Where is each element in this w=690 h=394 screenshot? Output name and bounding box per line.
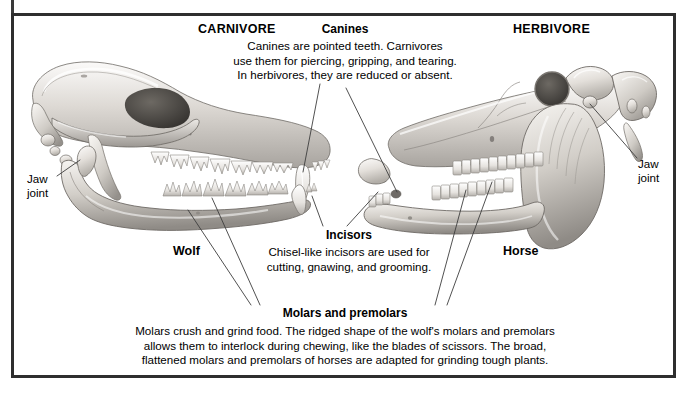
callout-canines-body: Canines are pointed teeth. Carnivores us… (233, 39, 457, 83)
label-specimen-wolf: Wolf (173, 245, 200, 259)
callout-molars-body: Molars crush and grind food. The ridged … (135, 324, 555, 368)
callout-incisors-body: Chisel-like incisors are used for cuttin… (267, 245, 431, 274)
label-jaw-joint-right: Jaw joint (638, 157, 659, 184)
label-specimen-horse: Horse (503, 245, 538, 259)
header-carnivore: CARNIVORE (198, 23, 276, 37)
figure-root: CARNIVORE HERBIVORE Canines Canines are … (0, 0, 690, 394)
label-jaw-joint-left: Jaw joint (27, 172, 48, 199)
callout-incisors-title: Incisors (326, 229, 372, 243)
callout-molars-title: Molars and premolars (283, 307, 408, 321)
callout-canines-title: Canines (322, 23, 369, 37)
header-herbivore: HERBIVORE (513, 23, 590, 37)
